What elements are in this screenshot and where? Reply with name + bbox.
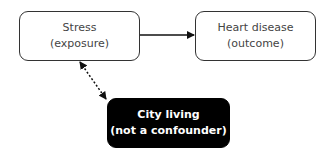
node-heart-disease-outcome: Heart disease (outcome): [195, 11, 316, 61]
node-title: Stress: [63, 20, 97, 36]
node-title: Heart disease: [218, 20, 294, 36]
edge-stress-city-dotted: [80, 62, 106, 99]
node-title: City living: [137, 107, 199, 123]
node-stress-exposure: Stress (exposure): [19, 11, 140, 61]
node-subtitle: (exposure): [50, 36, 109, 52]
node-city-living: City living (not a confounder): [107, 98, 230, 148]
node-subtitle: (not a confounder): [110, 123, 226, 139]
node-subtitle: (outcome): [227, 36, 284, 52]
